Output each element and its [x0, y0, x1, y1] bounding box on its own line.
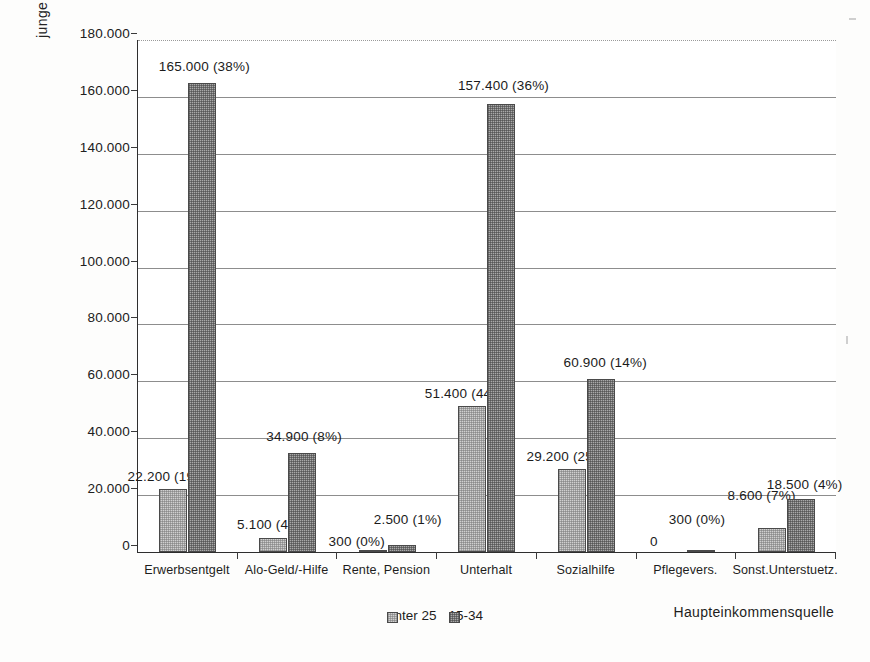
bar-group: 29.200 (25%)60.900 (14%): [537, 40, 637, 552]
bar-unter-25: [259, 538, 287, 553]
plot-area: 22.200 (19%)165.000 (38%)5.100 (4%)34.90…: [137, 40, 836, 553]
y-axis-tick-label: 160.000: [80, 82, 130, 97]
y-axis-title: junge Mütter: [34, 0, 50, 38]
data-label: 18.500 (4%): [767, 477, 843, 492]
y-axis-tick-label: 100.000: [80, 253, 130, 268]
bar-group: 0300 (0%): [637, 40, 737, 552]
legend-swatch-unter-25: [387, 612, 398, 623]
x-axis-tick-mark: [735, 552, 736, 559]
bar-group: 8.600 (7%)18.500 (4%): [736, 40, 836, 552]
scan-artifact-top-right: [849, 18, 856, 20]
x-axis-tick-mark: [336, 552, 337, 559]
x-axis-category-label: Sonst.Unterstuetz.: [732, 563, 837, 577]
bar-unter-25: [458, 406, 486, 552]
data-label: 34.900 (8%): [266, 429, 342, 444]
bar-group: 51.400 (44%)157.400 (36%): [437, 40, 537, 552]
bar-15-34: [787, 499, 815, 552]
x-axis-category-label: Unterhalt: [460, 563, 512, 577]
data-label: 300 (0%): [329, 534, 385, 549]
x-axis-category-label: Erwerbsentgelt: [144, 563, 229, 577]
data-label: 0: [650, 534, 658, 549]
x-axis-category-label: Alo-Geld/-Hilfe: [245, 563, 328, 577]
y-axis-tick-label: 180.000: [80, 26, 130, 41]
x-axis-tick-mark: [536, 552, 537, 559]
x-axis-tick-mark: [636, 552, 637, 559]
data-label: 2.500 (1%): [374, 512, 442, 527]
x-axis-category-label: Rente, Pension: [343, 563, 431, 577]
bar-15-34: [288, 453, 316, 552]
bar-15-34: [587, 379, 615, 552]
y-axis-tick-label: 0: [122, 538, 130, 553]
bar-unter-25: [758, 528, 786, 552]
x-axis-category-labels: ErwerbsentgeltAlo-Geld/-HilfeRente, Pens…: [137, 563, 837, 589]
data-label: 157.400 (36%): [458, 78, 549, 93]
bar-15-34: [388, 545, 416, 552]
y-axis-tick-label: 120.000: [80, 196, 130, 211]
x-axis-tick-mark: [237, 552, 238, 559]
bar-group: 5.100 (4%)34.900 (8%): [238, 40, 338, 552]
legend-item-unter-25: unter 25: [387, 608, 437, 623]
y-axis-tick-label: 20.000: [88, 481, 131, 496]
x-axis-category-label: Sozialhilfe: [556, 563, 615, 577]
y-axis-tick-labels: 020.00040.00060.00080.000100.000120.0001…: [60, 33, 136, 552]
data-label: 300 (0%): [669, 512, 725, 527]
bar-chart-figure: junge Mütter 020.00040.00060.00080.00010…: [0, 0, 870, 662]
bar-15-34: [188, 83, 216, 552]
bar-15-34: [487, 104, 515, 552]
scan-artifact-right-edge: [846, 336, 848, 344]
y-axis-tick-mark: [131, 33, 137, 34]
x-axis-category-label: Pflegevers.: [653, 563, 717, 577]
bar-group: 300 (0%)2.500 (1%): [337, 40, 437, 552]
x-axis-title: Haupteinkommensquelle: [674, 604, 834, 620]
bar-group: 22.200 (19%)165.000 (38%): [138, 40, 238, 552]
x-axis-tick-mark: [835, 552, 836, 559]
bar-unter-25: [159, 489, 187, 552]
legend-swatch-15-34: [449, 612, 460, 623]
x-axis-tick-mark: [436, 552, 437, 559]
data-label: 165.000 (38%): [159, 59, 250, 74]
y-axis-tick-label: 140.000: [80, 139, 130, 154]
y-axis-tick-label: 80.000: [88, 310, 131, 325]
y-axis-tick-label: 60.000: [88, 367, 131, 382]
legend-item-15-34: 15-34: [449, 608, 484, 623]
bar-unter-25: [558, 469, 586, 552]
y-axis-tick-label: 40.000: [88, 424, 131, 439]
data-label: 60.900 (14%): [563, 355, 646, 370]
